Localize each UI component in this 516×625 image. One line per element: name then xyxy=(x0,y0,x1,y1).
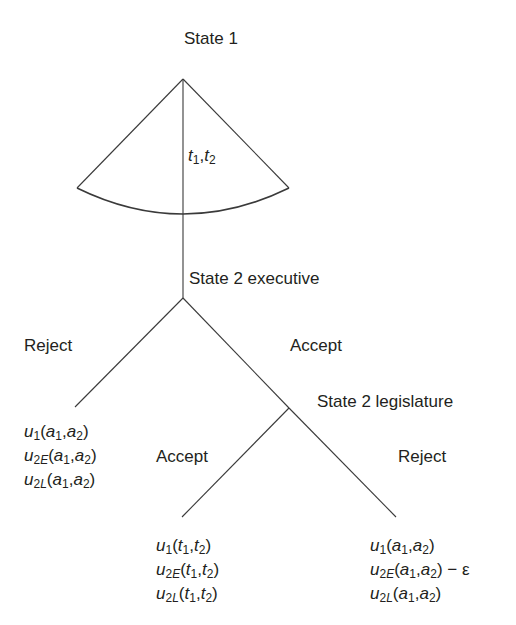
payoff-line: u1(a1,a2) xyxy=(370,534,470,558)
exec-accept-label: Accept xyxy=(290,336,342,356)
game-tree-diagram xyxy=(0,0,516,625)
exec-accept-branch xyxy=(183,298,289,408)
state1-label: State 1 xyxy=(184,29,238,49)
exec-reject-label: Reject xyxy=(24,336,72,356)
payoff-line: u1(t1,t2) xyxy=(156,534,219,558)
leg-reject-branch xyxy=(289,408,396,517)
payoff-line: u2L(t1,t2) xyxy=(156,582,219,606)
sub-1: 1 xyxy=(193,153,200,167)
payoff-leg-accept: u1(t1,t2)u2E(t1,t2)u2L(t1,t2) xyxy=(156,534,219,606)
payoff-line: u2L(a1,a2) xyxy=(370,582,470,606)
payoff-line: u2E(a1,a2) − ε xyxy=(370,558,470,582)
fan-left-edge xyxy=(77,79,183,188)
payoff-leg-reject: u1(a1,a2)u2E(a1,a2) − εu2L(a1,a2) xyxy=(370,534,470,606)
fan-choice-label: t1,t2 xyxy=(188,146,216,167)
legislature-label: State 2 legislature xyxy=(317,392,453,412)
payoff-line: u1(a1,a2) xyxy=(24,420,97,444)
fan-right-edge xyxy=(183,79,289,188)
payoff-line: u2E(t1,t2) xyxy=(156,558,219,582)
executive-label: State 2 executive xyxy=(189,269,319,289)
leg-reject-label: Reject xyxy=(398,447,446,467)
exec-reject-branch xyxy=(75,298,183,407)
payoff-line: u2L(a1,a2) xyxy=(24,468,97,492)
payoff-line: u2E(a1,a2) xyxy=(24,444,97,468)
payoff-exec-reject: u1(a1,a2)u2E(a1,a2)u2L(a1,a2) xyxy=(24,420,97,492)
sub-2: 2 xyxy=(209,153,216,167)
leg-accept-label: Accept xyxy=(156,447,208,467)
